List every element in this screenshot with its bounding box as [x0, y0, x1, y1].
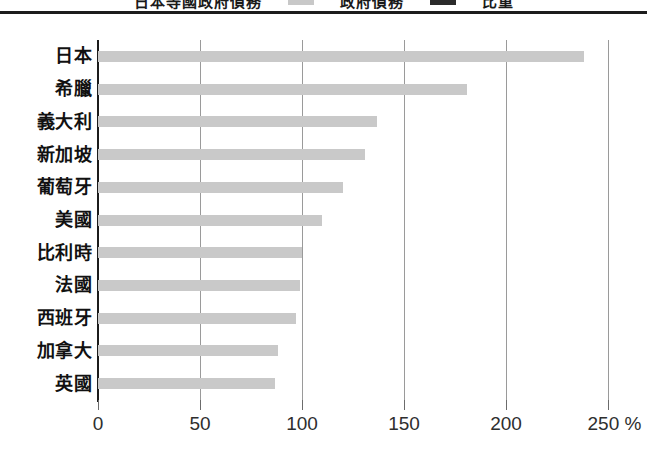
cut-off-title-strip: 日本等國政府債務 政府債務 比重 — [0, 0, 647, 11]
gridline — [608, 40, 609, 400]
x-axis-tick — [98, 400, 99, 410]
bar — [98, 116, 377, 127]
category-label: 法國 — [4, 275, 92, 295]
title-strip-content: 日本等國政府債務 政府債務 比重 — [0, 0, 647, 11]
category-label: 葡萄牙 — [4, 177, 92, 197]
title-fragment: 日本等國政府債務 — [134, 0, 262, 11]
bar — [98, 313, 296, 324]
category-label: 新加坡 — [4, 145, 92, 165]
category-label: 比利時 — [4, 243, 92, 263]
legend-swatch-light-icon — [288, 0, 314, 5]
legend-label-one: 政府債務 — [340, 0, 404, 11]
x-axis-tick — [200, 400, 201, 410]
bar — [98, 51, 584, 62]
x-axis-tick — [506, 400, 507, 410]
x-axis-tick-label: 100 — [286, 413, 318, 435]
bar — [98, 149, 365, 160]
bar — [98, 280, 300, 291]
plot-area — [98, 40, 608, 400]
x-axis-tick-label: 150 — [388, 413, 420, 435]
x-axis-tick — [404, 400, 405, 410]
x-axis-tick-label: 0 — [93, 413, 104, 435]
legend-label-two: 比重 — [482, 0, 514, 11]
category-label: 希臘 — [4, 79, 92, 99]
bar — [98, 215, 322, 226]
category-label: 美國 — [4, 210, 92, 230]
x-axis-tick-label: 50 — [189, 413, 210, 435]
x-axis-tick — [608, 400, 609, 410]
bar-chart: 日本希臘義大利新加坡葡萄牙美國比利時法國西班牙加拿大英國 05010015020… — [0, 14, 647, 451]
category-label: 日本 — [4, 46, 92, 66]
category-label: 義大利 — [4, 112, 92, 132]
bar — [98, 182, 343, 193]
bar — [98, 345, 278, 356]
bar — [98, 247, 302, 258]
bar — [98, 84, 467, 95]
x-axis-tick-label: 250 % — [588, 413, 642, 435]
category-label: 英國 — [4, 374, 92, 394]
legend-swatch-dark-icon — [430, 0, 456, 5]
category-label: 加拿大 — [4, 341, 92, 361]
category-label: 西班牙 — [4, 308, 92, 328]
bar — [98, 378, 275, 389]
gridline — [506, 40, 507, 400]
category-axis-labels: 日本希臘義大利新加坡葡萄牙美國比利時法國西班牙加拿大英國 — [0, 40, 92, 400]
x-axis-tick — [302, 400, 303, 410]
x-axis-tick-label: 200 — [490, 413, 522, 435]
